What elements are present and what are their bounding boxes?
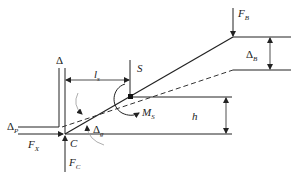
diagram-svg: FB ΔB Δ ls S MS h ΔP FX C Δg FC [0, 0, 291, 178]
label-h: h [192, 110, 198, 122]
joint-s [128, 94, 133, 99]
label-delta: Δ [56, 54, 63, 66]
label-ls: ls [94, 68, 100, 83]
label-s: S [137, 62, 143, 74]
moment-ms-arc [114, 84, 139, 115]
rotation-arc-grey [76, 93, 82, 114]
label-fx: FX [27, 138, 40, 153]
label-delta-b: ΔB [246, 48, 258, 63]
deflected-member-dashed [62, 70, 233, 127]
label-fb: FB [237, 7, 250, 22]
frame-deflection-diagram: FB ΔB Δ ls S MS h ΔP FX C Δg FC [0, 0, 291, 178]
label-fc: FC [68, 156, 81, 171]
label-c: C [70, 137, 78, 149]
inclined-member [65, 37, 233, 134]
label-delta-g: Δg [93, 123, 104, 138]
label-ms: MS [141, 106, 155, 121]
label-delta-p: ΔP [7, 120, 19, 135]
